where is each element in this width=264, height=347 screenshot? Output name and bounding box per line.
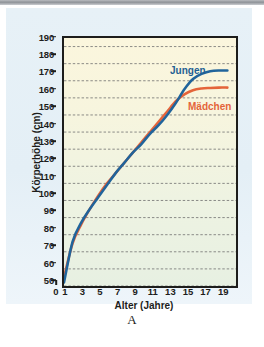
x-axis-title: Alter (Jahre) [56,300,232,311]
y-tick-mark [51,88,56,90]
y-axis-title: Körperhöhe (cm) [31,27,42,279]
y-tick-mark [51,123,56,125]
y-tick-mark [51,262,56,264]
series-label-jungen: Jungen [170,65,206,76]
y-tick-mark [51,105,56,107]
figure-caption: A [0,312,264,328]
y-tick-mark [51,192,56,194]
y-tick-mark [51,36,56,38]
y-tick-mark [51,71,56,73]
data-curves [64,38,236,286]
figure-panel: 5060708090100110120130140150160170180190… [6,8,252,304]
y-tick-mark [51,227,56,229]
plot-area [62,36,238,288]
x-tick-label: 0 [53,286,58,297]
y-tick-mark [51,210,56,212]
y-tick-mark [51,140,56,142]
curve-mädchen [64,88,227,278]
top-gray-bar [0,0,264,5]
series-label-maedchen: Mädchen [188,101,231,112]
y-tick-mark [51,244,56,246]
y-tick-mark [51,175,56,177]
y-tick-mark [51,158,56,160]
x-tick-mark [55,280,57,285]
y-tick-mark [51,53,56,55]
